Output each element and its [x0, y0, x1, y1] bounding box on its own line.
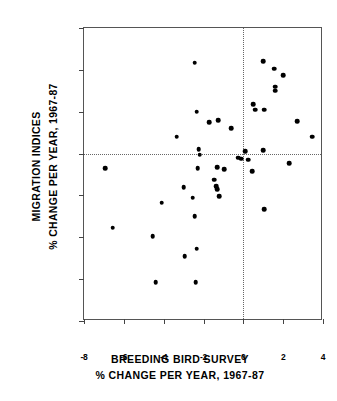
scatter-plot-figure: 6420-2-4-6-8 -8-6-4-2024 MIGRATION INDIC… — [0, 0, 337, 401]
y-axis-tick — [79, 70, 84, 71]
data-point — [295, 119, 300, 124]
data-point — [159, 200, 164, 205]
y-axis-tick — [79, 237, 84, 238]
y-axis-title: MIGRATION INDICES % CHANGE PER YEAR, 196… — [14, 20, 74, 313]
data-point — [216, 118, 221, 123]
x-axis-tick — [124, 319, 125, 324]
x-axis-tick — [323, 319, 324, 324]
y-axis-tick — [79, 28, 84, 29]
data-point — [287, 161, 292, 166]
plot-area: 6420-2-4-6-8 -8-6-4-2024 — [83, 27, 322, 320]
data-point — [262, 207, 267, 212]
data-point — [193, 280, 198, 285]
reference-line-vertical-zero — [243, 28, 244, 319]
data-point — [181, 185, 186, 190]
data-point — [217, 194, 222, 199]
y-axis-title-line2: % CHANGE PER YEAR, 1967-87 — [45, 83, 61, 249]
y-axis-tick — [79, 195, 84, 196]
data-point — [253, 107, 258, 112]
data-point — [192, 214, 197, 219]
y-axis-title-line1: MIGRATION INDICES — [28, 112, 44, 222]
x-axis-tick — [84, 319, 85, 324]
data-point — [111, 226, 116, 231]
data-point — [251, 102, 256, 107]
data-point — [215, 187, 220, 192]
reference-line-horizontal-zero — [84, 154, 321, 155]
data-point — [239, 157, 244, 162]
data-point — [150, 234, 155, 239]
data-point — [197, 152, 202, 157]
data-point — [194, 246, 199, 251]
y-axis-tick — [79, 279, 84, 280]
data-point — [194, 109, 199, 114]
data-point — [310, 135, 315, 140]
data-point — [261, 59, 266, 64]
data-point — [103, 166, 108, 171]
data-point — [261, 148, 266, 153]
x-axis-tick — [283, 319, 284, 324]
x-axis-tick — [243, 319, 244, 324]
y-axis-tick — [79, 112, 84, 113]
data-point — [212, 177, 217, 182]
data-point — [207, 120, 212, 125]
data-point — [229, 126, 234, 131]
data-point — [174, 135, 179, 140]
x-axis-tick — [164, 319, 165, 324]
data-point — [195, 166, 200, 171]
x-axis-title-line2: % CHANGE PER YEAR, 1967-87 — [40, 368, 320, 383]
x-axis-title: BREEDING BIRD SURVEY % CHANGE PER YEAR, … — [40, 352, 320, 383]
data-point — [246, 158, 251, 163]
data-point — [262, 107, 267, 112]
data-point — [192, 60, 197, 65]
y-axis-tick — [79, 154, 84, 155]
data-point — [243, 149, 248, 154]
data-point — [196, 147, 201, 152]
data-point — [250, 169, 255, 174]
data-point — [215, 165, 220, 170]
data-point — [273, 88, 278, 93]
data-point — [182, 254, 187, 259]
data-point — [222, 167, 227, 172]
x-axis-title-line1: BREEDING BIRD SURVEY — [40, 352, 320, 367]
x-axis-tick — [204, 319, 205, 324]
data-point — [281, 73, 286, 78]
data-point — [153, 280, 158, 285]
data-point — [190, 195, 195, 200]
data-point — [272, 67, 277, 72]
